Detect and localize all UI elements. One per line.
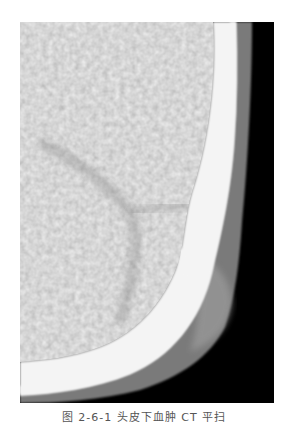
figure-caption: 图 2-6-1 头皮下血肿 CT 平扫 xyxy=(0,411,288,425)
ct-scan-image xyxy=(20,22,274,403)
